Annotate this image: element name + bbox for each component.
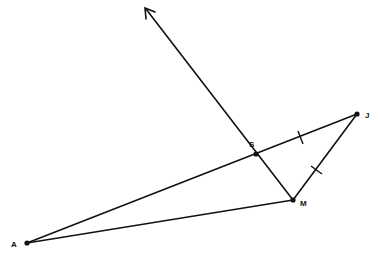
point-m: [290, 197, 295, 202]
label-a: A: [11, 240, 17, 249]
label-j: J: [365, 111, 369, 120]
point-s: [253, 151, 258, 156]
geometry-diagram: A M J S: [0, 0, 380, 260]
label-s: S: [249, 140, 255, 149]
segment-aj: [27, 114, 357, 243]
segment-am: [27, 200, 293, 243]
point-a: [24, 240, 29, 245]
label-m: M: [300, 199, 307, 208]
point-j: [354, 111, 359, 116]
ray-ms: [146, 9, 293, 200]
